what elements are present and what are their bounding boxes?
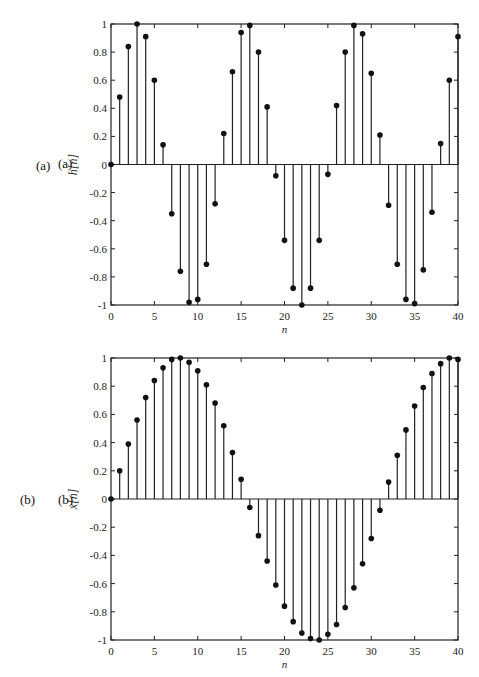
stem-marker <box>447 355 453 361</box>
stem-marker <box>412 403 418 409</box>
stem-marker <box>377 507 383 513</box>
y-tick-label: 0 <box>102 493 108 505</box>
stem-marker <box>117 468 123 474</box>
y-tick-label: -0.2 <box>90 521 107 533</box>
stem-marker <box>421 385 427 391</box>
stem-marker <box>247 505 253 511</box>
x-tick-label: 35 <box>409 645 421 657</box>
stem-marker <box>230 450 236 456</box>
x-tick-label: 20 <box>279 645 291 657</box>
stem-marker <box>256 533 262 539</box>
stem-marker <box>308 636 314 642</box>
stem-marker <box>455 357 461 363</box>
x-tick-label: 30 <box>366 645 378 657</box>
stem-marker <box>238 476 244 482</box>
y-tick-label: -0.6 <box>90 578 108 590</box>
stem-marker <box>351 585 357 591</box>
y-tick-label: 0.2 <box>93 465 107 477</box>
y-tick-label: 0.4 <box>93 437 107 449</box>
stem-marker <box>360 561 366 567</box>
y-tick-label: 0.8 <box>93 380 107 392</box>
x-tick-label: 10 <box>192 645 204 657</box>
stem-marker <box>325 632 331 638</box>
x-tick-label: 5 <box>152 645 158 657</box>
y-axis-label: x[n] <box>66 488 80 510</box>
stem-marker <box>368 536 374 542</box>
y-tick-label: -0.4 <box>90 549 108 561</box>
stem-marker <box>342 605 348 611</box>
y-tick-label: 0.6 <box>93 408 107 420</box>
stem-marker <box>160 365 166 371</box>
stem-marker <box>134 417 140 423</box>
stem-marker <box>126 441 132 447</box>
stem-marker <box>403 427 409 433</box>
y-tick-label: -1 <box>98 634 107 646</box>
x-tick-label: 25 <box>322 645 334 657</box>
stem-marker <box>394 452 400 458</box>
stem-plot-x: 10.80.60.40.20-0.2-0.4-0.6-0.8-105101520… <box>0 0 479 677</box>
x-axis-label: n <box>282 658 288 670</box>
stem-marker <box>204 382 210 388</box>
stem-marker <box>290 619 296 625</box>
stem-marker <box>334 622 340 628</box>
stem-marker <box>143 395 149 401</box>
stem-marker <box>178 355 184 361</box>
x-tick-label: 0 <box>108 645 114 657</box>
stem-marker <box>273 582 279 588</box>
x-tick-label: 40 <box>453 645 465 657</box>
y-tick-label: -0.8 <box>90 606 108 618</box>
stem-marker <box>221 423 227 429</box>
stem-marker <box>108 496 114 502</box>
stem-marker <box>438 361 444 367</box>
stem-marker <box>264 558 270 564</box>
x-tick-label: 15 <box>236 645 248 657</box>
stem-marker <box>299 630 305 636</box>
stem-marker <box>169 357 175 363</box>
stem-marker <box>316 637 322 643</box>
stem-marker <box>186 359 192 365</box>
stem-marker <box>152 378 158 384</box>
y-tick-label: 1 <box>102 352 108 364</box>
stem-marker <box>429 371 435 377</box>
stem-marker <box>212 400 218 406</box>
stem-marker <box>195 368 201 374</box>
stem-marker <box>282 603 288 609</box>
panel-b: (b) (b) 10.80.60.40.20-0.2-0.4-0.6-0.8-1… <box>0 0 479 677</box>
stem-marker <box>386 479 392 485</box>
